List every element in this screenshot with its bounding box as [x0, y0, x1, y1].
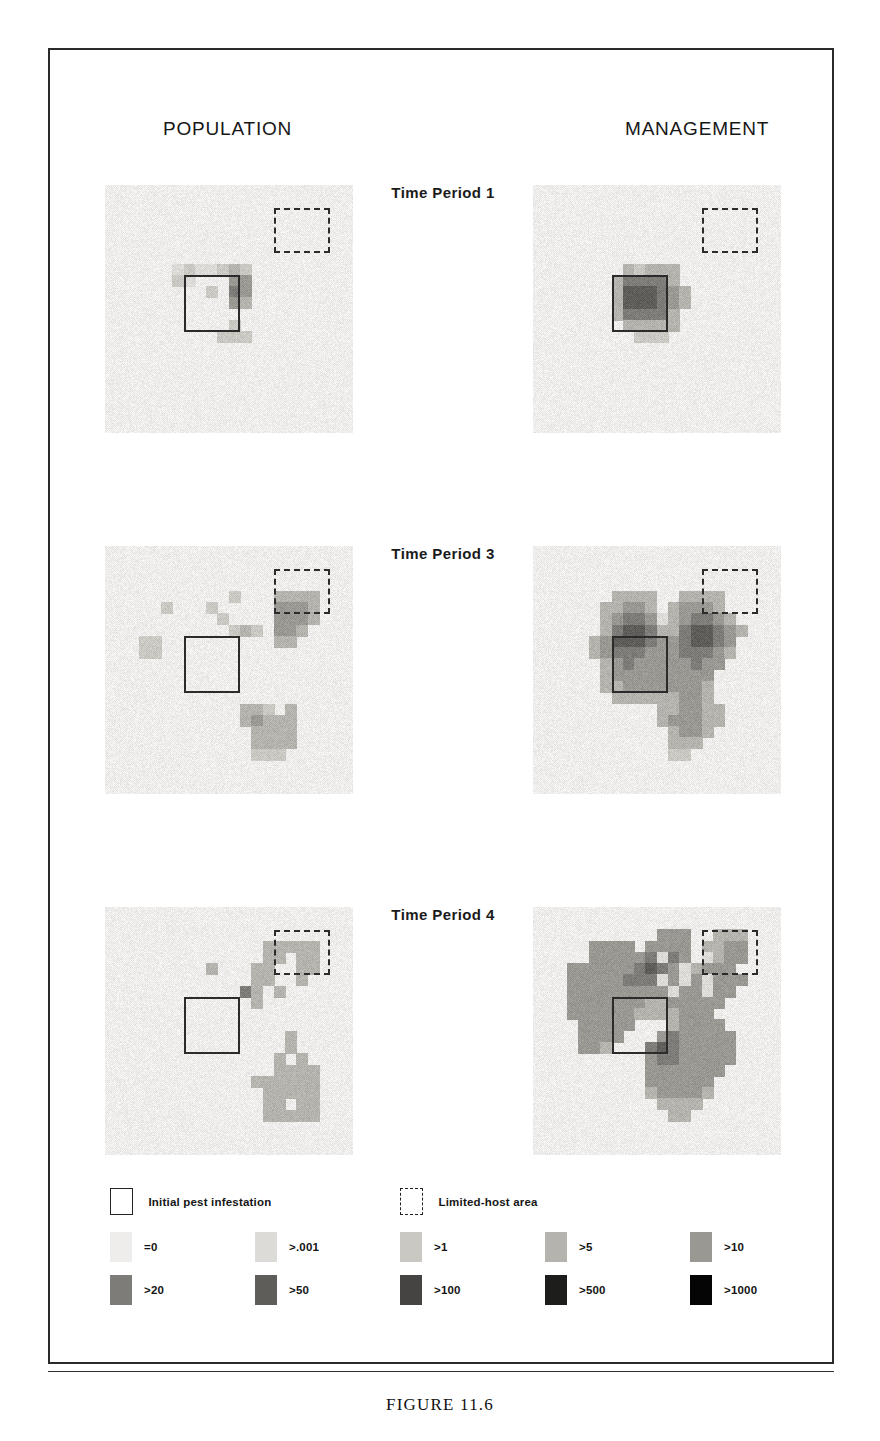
legend-class-label: >5	[579, 1241, 593, 1253]
legend-class-swatch-icon	[255, 1275, 277, 1305]
legend-class-label: =0	[144, 1241, 158, 1253]
legend-class-label: >100	[434, 1284, 461, 1296]
legend-class-swatch-icon	[400, 1232, 422, 1262]
figure-frame: POPULATION MANAGEMENT Time Period 1 Time…	[48, 48, 834, 1364]
figure-caption: FIGURE 11.6	[0, 1395, 880, 1415]
overlay-limited-host-area	[274, 569, 330, 614]
legend-symbol-label: Limited-host area	[438, 1196, 537, 1208]
legend: Initial pest infestation Limited-host ar…	[50, 1180, 836, 1360]
limited-host-area-swatch-icon	[400, 1188, 423, 1215]
overlay-initial-pest-infestation	[184, 997, 240, 1053]
legend-symbol-limited-host-area: Limited-host area	[400, 1188, 538, 1218]
legend-scale-row-lower: >20>50>100>500>1000	[50, 1275, 836, 1311]
legend-scale-row-upper: =0>.001>1>5>10	[50, 1232, 836, 1268]
legend-class-item: >1000	[690, 1275, 757, 1309]
map-panel-p4-population	[105, 907, 353, 1155]
legend-class-item: >10	[690, 1232, 744, 1266]
overlay-initial-pest-infestation	[184, 636, 240, 692]
overlay-initial-pest-infestation	[612, 636, 668, 692]
legend-class-label: >20	[144, 1284, 164, 1296]
legend-class-item: >500	[545, 1275, 606, 1309]
map-panel-p1-management	[533, 185, 781, 433]
legend-class-item: >50	[255, 1275, 309, 1309]
map-panel-p1-population	[105, 185, 353, 433]
overlay-initial-pest-infestation	[612, 997, 668, 1053]
legend-class-swatch-icon	[400, 1275, 422, 1305]
legend-class-label: >1000	[724, 1284, 757, 1296]
map-panel-p4-management	[533, 907, 781, 1155]
legend-symbol-initial-pest-infestation: Initial pest infestation	[110, 1188, 271, 1218]
legend-class-item: >5	[545, 1232, 593, 1266]
overlay-initial-pest-infestation	[612, 275, 668, 331]
legend-class-swatch-icon	[545, 1275, 567, 1305]
overlay-initial-pest-infestation	[184, 275, 240, 331]
overlay-limited-host-area	[274, 208, 330, 253]
column-title-management: MANAGEMENT	[625, 118, 769, 140]
overlay-limited-host-area	[702, 930, 758, 975]
map-panel-p3-population	[105, 546, 353, 794]
legend-class-item: >20	[110, 1275, 164, 1309]
legend-class-label: >.001	[289, 1241, 319, 1253]
caption-rule	[48, 1371, 834, 1372]
overlay-limited-host-area	[702, 208, 758, 253]
legend-class-swatch-icon	[545, 1232, 567, 1262]
legend-class-item: =0	[110, 1232, 158, 1266]
legend-symbol-label: Initial pest infestation	[148, 1196, 271, 1208]
legend-class-swatch-icon	[110, 1232, 132, 1262]
legend-class-swatch-icon	[690, 1275, 712, 1305]
initial-pest-infestation-swatch-icon	[110, 1188, 133, 1215]
legend-class-swatch-icon	[110, 1275, 132, 1305]
overlay-limited-host-area	[702, 569, 758, 614]
legend-class-label: >1	[434, 1241, 448, 1253]
legend-class-label: >50	[289, 1284, 309, 1296]
legend-class-label: >500	[579, 1284, 606, 1296]
legend-class-label: >10	[724, 1241, 744, 1253]
legend-class-swatch-icon	[255, 1232, 277, 1262]
legend-class-item: >1	[400, 1232, 448, 1266]
map-panel-p3-management	[533, 546, 781, 794]
legend-class-swatch-icon	[690, 1232, 712, 1262]
column-title-population: POPULATION	[163, 118, 292, 140]
legend-class-item: >100	[400, 1275, 461, 1309]
overlay-limited-host-area	[274, 930, 330, 975]
legend-class-item: >.001	[255, 1232, 319, 1266]
